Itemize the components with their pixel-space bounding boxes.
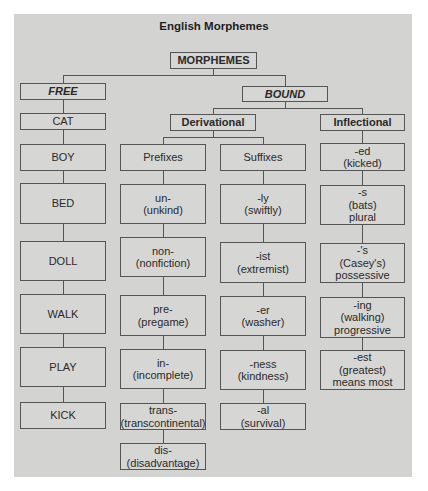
affix-label: -'s	[357, 244, 368, 257]
connector	[213, 68, 214, 75]
example-label: (pregame)	[138, 316, 189, 329]
node-label: BED	[52, 197, 75, 210]
affix-label: trans-	[149, 404, 177, 417]
note-label: means most	[333, 376, 393, 389]
example-label: (kicked)	[343, 157, 382, 170]
prefix-item: in-(incomplete)	[120, 349, 206, 389]
node-label: DOLL	[49, 255, 78, 268]
affix-label: -ist	[256, 250, 271, 263]
affix-label: -ed	[355, 145, 371, 158]
example-label: (bats)	[348, 199, 376, 212]
suffix-item: -al(survival)	[220, 403, 306, 430]
node-label: PLAY	[49, 361, 76, 374]
connector	[285, 75, 286, 86]
free-item-kick: KICK	[20, 402, 106, 429]
affix-label: un-	[155, 192, 171, 205]
affix-label: -ness	[250, 358, 277, 371]
connector	[285, 101, 286, 108]
prefixes-node: Prefixes	[120, 144, 206, 171]
note-label: progressive	[334, 324, 391, 337]
connector	[163, 137, 164, 144]
note-label: possessive	[335, 269, 389, 282]
example-label: (swiftly)	[244, 204, 281, 217]
inflection-item: -'s(Casey's)possessive	[320, 243, 405, 283]
prefix-item: pre-(pregame)	[120, 295, 206, 336]
node-label: MORPHEMES	[177, 54, 249, 67]
connector	[63, 75, 286, 76]
example-label: (Casey's)	[339, 257, 385, 270]
bound-node: BOUND	[242, 86, 328, 102]
affix-label: -al	[257, 404, 269, 417]
node-label: BOUND	[265, 88, 305, 101]
example-label: (nonfiction)	[136, 257, 190, 270]
free-item-cat: CAT	[20, 113, 106, 130]
suffix-item: -er(washer)	[220, 296, 306, 336]
node-label: KICK	[50, 409, 76, 422]
connector	[213, 108, 363, 109]
affix-label: -ing	[353, 299, 371, 312]
inflection-item: -ed(kicked)	[320, 143, 405, 171]
note-label: plural	[349, 211, 376, 224]
derivational-node: Derivational	[170, 114, 256, 131]
affix-label: -est	[353, 351, 371, 364]
example-label: (survival)	[241, 417, 286, 430]
node-label: FREE	[48, 85, 77, 98]
suffix-item: -ist(extremist)	[220, 242, 306, 283]
prefix-item: trans-(transcontinental)	[120, 403, 206, 430]
free-item-bed: BED	[20, 183, 106, 224]
affix-label: pre-	[153, 303, 173, 316]
suffix-item: -ly(swiftly)	[220, 184, 306, 224]
connector	[263, 137, 264, 144]
node-label: WALK	[48, 308, 79, 321]
affix-label: dis-	[154, 444, 172, 457]
example-label: (walking)	[340, 311, 384, 324]
example-label: (extremist)	[237, 263, 289, 276]
prefix-item: non-(nonfiction)	[120, 237, 206, 277]
example-label: (kindness)	[238, 370, 289, 383]
inflection-item: -est(greatest)means most	[320, 350, 405, 390]
example-label: (incomplete)	[133, 369, 194, 382]
node-label: Suffixes	[244, 151, 283, 164]
diagram-title: English Morphemes	[0, 20, 428, 32]
node-label: Inflectional	[333, 116, 391, 129]
example-label: (greatest)	[339, 364, 386, 377]
inflection-item: -s(bats)plural	[320, 185, 405, 225]
example-label: (unkind)	[143, 204, 183, 217]
affix-label: in-	[157, 357, 169, 370]
inflectional-node: Inflectional	[320, 114, 405, 131]
node-label: Prefixes	[143, 151, 183, 164]
affix-label: non-	[152, 245, 174, 258]
affix-label: -ly	[257, 192, 269, 205]
connector	[163, 137, 263, 138]
node-label: Derivational	[182, 116, 245, 129]
suffixes-node: Suffixes	[220, 144, 306, 171]
free-item-doll: DOLL	[20, 241, 106, 281]
free-item-walk: WALK	[20, 294, 106, 334]
free-item-play: PLAY	[20, 347, 106, 387]
node-label: CAT	[52, 115, 73, 128]
connector	[63, 75, 64, 83]
inflection-item: -ing(walking)progressive	[320, 297, 405, 338]
example-label: (transcontinental)	[121, 417, 206, 430]
prefix-item: un-(unkind)	[120, 184, 206, 224]
suffix-item: -ness(kindness)	[220, 350, 306, 390]
morphemes-root-node: MORPHEMES	[170, 52, 257, 69]
prefix-item: dis-(disadvantage)	[120, 443, 206, 470]
affix-label: -er	[256, 304, 269, 317]
node-label: BOY	[51, 151, 74, 164]
free-item-boy: BOY	[20, 144, 106, 171]
affix-label: -s	[358, 186, 367, 199]
example-label: (disadvantage)	[127, 457, 200, 470]
free-node: FREE	[20, 83, 106, 100]
example-label: (washer)	[242, 316, 285, 329]
